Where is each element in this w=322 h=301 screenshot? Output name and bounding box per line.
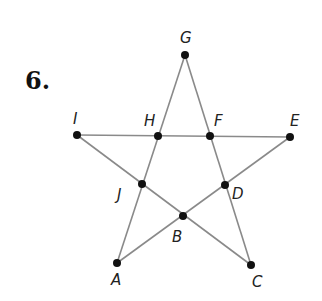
- label-D: D: [232, 185, 244, 203]
- point-I: [73, 131, 81, 139]
- label-G: G: [180, 29, 192, 47]
- label-F: F: [214, 112, 223, 130]
- label-A: A: [110, 271, 121, 289]
- label-B: B: [172, 228, 182, 246]
- segment-IE: [77, 135, 290, 137]
- point-B: [179, 212, 187, 220]
- label-C: C: [252, 273, 263, 291]
- segment-IC: [77, 135, 251, 265]
- label-E: E: [290, 112, 300, 130]
- segment-GC: [185, 55, 251, 265]
- point-E: [286, 133, 294, 141]
- point-C: [247, 261, 255, 269]
- label-J: J: [114, 186, 121, 204]
- point-labels: G I H F E J D B A C: [73, 29, 300, 291]
- point-G: [181, 51, 189, 59]
- point-A: [113, 259, 121, 267]
- point-J: [138, 180, 146, 188]
- point-H: [154, 132, 162, 140]
- label-H: H: [144, 112, 155, 130]
- vertex-points: [73, 51, 294, 269]
- segment-AE: [117, 137, 290, 263]
- point-F: [206, 132, 214, 140]
- pentagram-diagram: G I H F E J D B A C: [0, 0, 322, 301]
- label-I: I: [73, 110, 78, 128]
- star-segments: [77, 55, 290, 265]
- point-D: [221, 181, 229, 189]
